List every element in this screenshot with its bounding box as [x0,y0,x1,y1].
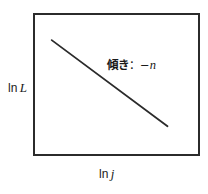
slope-annotation-label: 傾き [107,58,129,72]
slope-annotation-separator: ： [129,58,140,72]
slope-annotation: 傾き：−n [107,56,156,73]
y-axis-label-prefix: ln [8,81,18,95]
log-log-slope-figure: 傾き：−n lnL lnj [0,0,208,194]
plot-frame [33,13,200,156]
slope-annotation-variable: n [150,58,156,72]
y-axis-label: lnL [8,80,27,96]
slope-annotation-minus: − [140,58,150,72]
x-axis-label-variable: j [109,166,115,181]
x-axis-label: lnj [99,166,115,182]
y-axis-label-variable: L [18,80,27,95]
x-axis-label-prefix: ln [99,167,109,181]
